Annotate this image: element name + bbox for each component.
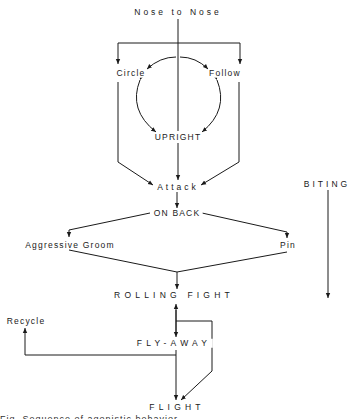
node-recycle: Recycle — [7, 317, 46, 326]
node-on-back: ON BACK — [152, 209, 203, 218]
figure-caption-cutoff: Fig. Sequence of agonistic behavior ... — [0, 413, 353, 419]
node-follow: Follow — [209, 69, 241, 78]
node-pin: Pin — [280, 241, 296, 250]
node-fly-away: FLY-AWAY — [135, 339, 213, 348]
node-aggressive-groom: Aggressive Groom — [25, 241, 115, 250]
node-attack: Attack — [157, 183, 199, 192]
node-flight: FLIGHT — [149, 403, 204, 412]
node-circle: Circle — [117, 69, 146, 78]
node-upright: UPRIGHT — [154, 133, 203, 142]
node-nose-to-nose: Nose to Nose — [134, 8, 222, 17]
node-rolling-fight: ROLLING FIGHT — [114, 291, 234, 300]
label-biting: BITING — [304, 180, 350, 189]
